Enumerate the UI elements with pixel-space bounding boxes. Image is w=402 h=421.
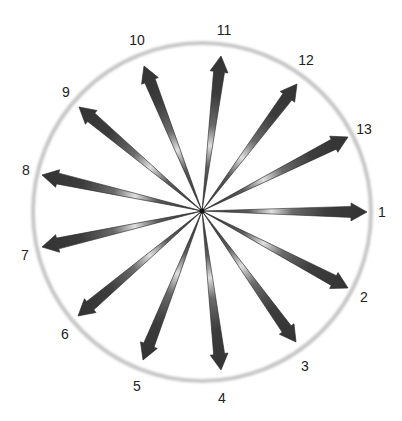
- arrow-label-13: 13: [356, 121, 372, 137]
- arrow-label-7: 7: [21, 247, 29, 263]
- arrow-shape: [135, 208, 211, 364]
- arrow-9: [73, 100, 208, 218]
- arrow-label-1: 1: [378, 204, 386, 220]
- arrow-4: [193, 210, 230, 371]
- arrow-label-12: 12: [298, 52, 314, 68]
- arrow-shape: [73, 100, 208, 218]
- arrow-shape: [193, 55, 230, 212]
- arrow-13: [198, 129, 352, 219]
- arrow-6: [72, 204, 208, 323]
- arrow-label-11: 11: [217, 22, 232, 38]
- center-hub: [200, 209, 205, 214]
- arrow-label-3: 3: [301, 358, 309, 374]
- arrow-5: [135, 208, 211, 364]
- arrow-shape: [136, 63, 211, 215]
- arrows-group: [40, 55, 367, 371]
- arrow-shape: [193, 210, 230, 371]
- arrow-2: [198, 203, 352, 296]
- arrow-shape: [198, 129, 352, 219]
- arrow-11: [193, 55, 230, 212]
- arrow-shape: [72, 204, 208, 323]
- arrow-label-2: 2: [360, 289, 368, 305]
- arrow-10: [136, 63, 211, 215]
- arrow-label-5: 5: [133, 378, 141, 394]
- arrow-shape: [198, 203, 352, 296]
- arrow-label-4: 4: [218, 390, 226, 406]
- arrow-label-6: 6: [61, 326, 69, 342]
- arrow-label-10: 10: [129, 32, 145, 48]
- arrow-1: [202, 202, 367, 221]
- arrow-label-8: 8: [22, 162, 30, 178]
- arrow-shape: [202, 202, 367, 221]
- radial-arrow-diagram: 12345678910111213: [0, 0, 402, 421]
- arrow-label-9: 9: [62, 84, 70, 100]
